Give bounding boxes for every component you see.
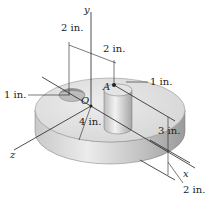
disk-bottom-extension bbox=[140, 160, 175, 180]
component-diagram: y x z O A 2 in. 2 in. 1 in. 1 in. 4 in. … bbox=[0, 0, 210, 197]
top-right-offset-label: 2 in. bbox=[103, 43, 125, 54]
diagram-canvas: y x z O A 2 in. 2 in. 1 in. 1 in. 4 in. … bbox=[0, 0, 210, 197]
point-a bbox=[112, 83, 116, 87]
cylinder-radius-label: 1 in. bbox=[150, 76, 172, 87]
top-left-offset-label: 2 in. bbox=[61, 22, 83, 33]
disk-radius-label: 4 in. bbox=[79, 116, 101, 127]
cylinder-height-label: 3 in. bbox=[158, 125, 180, 136]
origin-label: O bbox=[81, 95, 89, 106]
disk-thickness-label: 2 in. bbox=[183, 184, 205, 195]
y-axis-label: y bbox=[83, 4, 90, 15]
point-a-label: A bbox=[102, 81, 110, 92]
cylinder-body bbox=[104, 90, 132, 134]
z-axis-label: z bbox=[9, 149, 16, 160]
thickness-leader bbox=[168, 162, 183, 183]
hole-radius-label: 1 in. bbox=[4, 89, 26, 100]
origin-point bbox=[90, 105, 93, 108]
x-axis-label: x bbox=[183, 168, 189, 179]
